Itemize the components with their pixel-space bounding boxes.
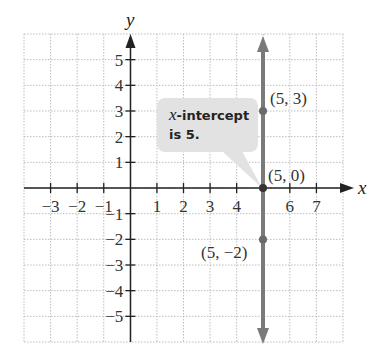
y-tick-label: −3 [105, 256, 123, 275]
x-tick-label: −2 [68, 197, 86, 216]
x-tick-label: 4 [232, 197, 241, 216]
point-label-5-0: (5, 0) [268, 166, 305, 185]
x-tick-label: −3 [42, 197, 60, 216]
point-5-0 [259, 184, 267, 192]
line-top-arrow-icon [257, 36, 269, 52]
point-5-neg2 [259, 236, 267, 244]
y-tick-label: 3 [115, 102, 124, 121]
x-tick-label: 2 [179, 197, 188, 216]
y-tick-label: 2 [115, 128, 124, 147]
x-tick-label: 7 [312, 197, 321, 216]
callout-x-variable: x [169, 105, 177, 124]
coordinate-plane: −3−2−112346754321−1−2−3−4−5 y x (5, 3) (… [0, 0, 385, 361]
x-tick-label: 6 [286, 197, 295, 216]
callout-pointer [222, 151, 262, 188]
y-axis-arrow-icon [126, 34, 136, 48]
callout-line-2: is 5. [169, 125, 258, 144]
callout-text-1: -intercept [177, 108, 250, 123]
y-tick-label: −1 [105, 205, 123, 224]
y-tick-label: 4 [115, 76, 124, 95]
y-tick-label: −2 [105, 230, 123, 249]
y-axis-label: y [124, 9, 135, 30]
y-tick-label: −5 [105, 307, 123, 326]
x-axis-label: x [357, 177, 367, 198]
point-label-5-3: (5, 3) [270, 89, 307, 108]
x-tick-label: 3 [206, 197, 215, 216]
point-5-3 [259, 107, 267, 115]
x-axis-arrow-icon [340, 183, 354, 193]
y-tick-label: 5 [115, 51, 124, 70]
y-tick-label: 1 [115, 153, 124, 172]
x-intercept-callout: x-intercept is 5. [157, 98, 258, 152]
callout-line-1: x-intercept [169, 105, 258, 125]
y-tick-label: −4 [105, 282, 124, 301]
point-label-5-neg2: (5, −2) [201, 243, 247, 262]
x-tick-label: 1 [153, 197, 162, 216]
